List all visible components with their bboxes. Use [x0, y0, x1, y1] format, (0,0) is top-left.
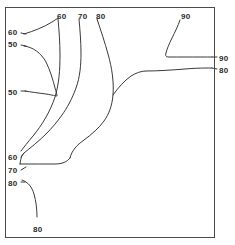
contour-map-figure: 60708090605050607080908080 — [0, 0, 235, 245]
contour-label-80-right: 80 — [219, 66, 228, 75]
contour-line-80 — [113, 68, 212, 95]
contour-line-50 — [24, 46, 57, 96]
contour-label-80-bottom: 80 — [33, 225, 42, 234]
contour-line-90 — [166, 20, 212, 57]
contour-line-70 — [20, 158, 70, 164]
contour-lines-group — [20, 18, 212, 217]
contour-line-80 — [22, 180, 37, 217]
contour-label-90-top: 90 — [181, 12, 190, 21]
contour-plot-canvas — [0, 0, 235, 245]
contour-label-70-top: 70 — [78, 12, 87, 21]
contour-label-80-left: 80 — [8, 179, 17, 188]
label-leader-line — [21, 153, 24, 157]
contour-label-70-left: 70 — [8, 166, 17, 175]
plot-frame-group — [6, 8, 215, 238]
contour-label-90-right: 90 — [219, 54, 228, 63]
label-leader-line — [212, 68, 217, 69]
plot-frame — [6, 8, 215, 238]
contour-label-50-left: 50 — [8, 40, 17, 49]
contour-label-60-left: 60 — [8, 153, 17, 162]
label-leader-line — [21, 45, 26, 46]
contour-line-80 — [70, 19, 113, 158]
contour-label-80-top: 80 — [96, 12, 105, 21]
label-leader-line — [21, 167, 26, 170]
contour-line-60 — [24, 18, 58, 34]
contour-label-60-left: 60 — [8, 28, 17, 37]
contour-label-50-left: 50 — [8, 88, 17, 97]
contour-label-60-top: 60 — [57, 12, 66, 21]
